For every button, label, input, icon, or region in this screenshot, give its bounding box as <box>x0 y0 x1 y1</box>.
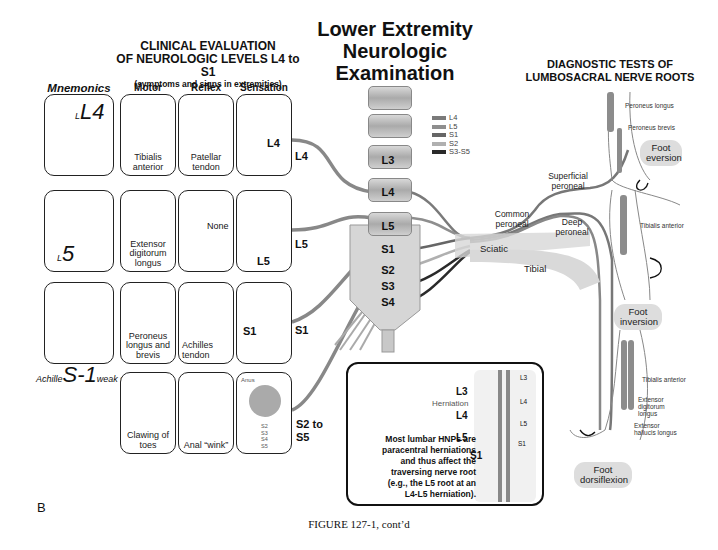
sensation-card-l5: L5 <box>236 190 292 272</box>
vertebra-label-l4: L4 <box>368 186 408 198</box>
muscle-label-extensor-digitorum-longus: Extensor digitorum longus <box>638 396 682 417</box>
panel-label: B <box>37 500 46 515</box>
region-label: S4 <box>261 436 268 443</box>
mnemonic-caption-left: Achille <box>36 374 63 384</box>
sciatic-label: Sciatic <box>480 244 508 254</box>
legend-swatch <box>432 125 446 129</box>
herniation-info-box: L3 Herniation L4 L5 S1 L3 L4 L5 S1 Most … <box>346 362 544 506</box>
explanation-line: traversing nerve root <box>356 467 476 478</box>
sensation-level: S1 <box>243 325 256 337</box>
legend-item: S3-S5 <box>432 148 470 157</box>
deep-peroneal-label: Deep peroneal <box>550 218 594 237</box>
explanation-line: Most lumbar HNPs are <box>356 434 476 445</box>
mnemonic-card-s1 <box>44 282 114 364</box>
motor-card-l4: Tibialis anterior <box>120 94 176 176</box>
vertebra-label-l5: L5 <box>368 220 408 232</box>
reflex-card-s2-s5: Anal “wink” <box>178 372 234 454</box>
vertebra-label-s2: S2 <box>368 264 408 276</box>
explanation-line: L4-L5 herniation). <box>356 489 476 500</box>
mnemonic-card-l4: LL4 <box>44 94 114 176</box>
sensation-card-l4: L4 <box>236 94 292 176</box>
explanation-line: (e.g., the L5 root at an <box>356 478 476 489</box>
vertebra-label-s4: S4 <box>368 296 408 308</box>
lumbar-spine-illustration <box>474 370 536 502</box>
row-level-s2-s5: S2 to S5 <box>296 418 326 444</box>
hnp-level-right: L4 <box>520 398 527 405</box>
sensation-card-s2-s5: Anus S2 S3 S4 S5 <box>236 372 292 454</box>
row-level-l4: L4 <box>295 150 308 162</box>
reflex-caption: Anal “wink” <box>179 441 233 451</box>
muscle-label-tibialis-anterior: Tibialis anterior <box>642 376 686 383</box>
hnp-level-right: L5 <box>520 420 527 427</box>
nerve-root <box>506 370 510 502</box>
motor-caption: Tibialis anterior <box>121 153 175 172</box>
legend-swatch <box>432 150 446 154</box>
reflex-caption: Patellar tendon <box>179 153 233 172</box>
mnemonic-level: S-1 <box>63 362 97 387</box>
anus-label: Anus <box>241 377 255 383</box>
figure-caption: FIGURE 127-1, cont’d <box>0 518 718 530</box>
foot-dorsiflexion-label: Foot dorsiflexion <box>574 462 632 488</box>
legend-swatch <box>432 142 446 146</box>
row-level-s1: S1 <box>295 324 308 336</box>
mnemonic-text: LL4 <box>75 99 105 125</box>
motor-card-s2-s5: Clawing of toes <box>120 372 176 454</box>
motor-card-s1: Peroneus longus and brevis <box>120 282 176 364</box>
common-peroneal-label: Common peroneal <box>490 210 534 229</box>
mnemonic-text: L5 <box>57 241 74 267</box>
herniation-label: Herniation <box>432 399 468 408</box>
hnp-level-right: L3 <box>520 374 527 381</box>
explanation-line: and thus affect the <box>356 456 476 467</box>
legend-swatch <box>432 133 446 137</box>
reflex-card-l5: None <box>178 190 234 272</box>
vertebra <box>368 114 412 138</box>
sensation-level: L5 <box>257 255 270 267</box>
foot-eversion-label: Foot eversion <box>640 140 682 166</box>
legend-swatch <box>432 116 446 120</box>
muscle-label-tibialis-anterior: Tibialis anterior <box>640 222 684 229</box>
mnemonic-level: L4 <box>80 99 104 124</box>
l4-nerve-path <box>292 140 372 192</box>
vertebra-label-s3: S3 <box>368 280 408 292</box>
reflex-caption: None <box>207 221 229 231</box>
explanation-line: paracentral herniations <box>356 445 476 456</box>
sensation-level: L4 <box>267 137 280 149</box>
vertebra <box>368 86 412 110</box>
hnp-level-left: L3 <box>456 386 468 397</box>
reflex-caption: Achilles tendon <box>182 341 233 360</box>
mnemonic-card-l5: L5 <box>44 190 114 272</box>
reflex-card-s1: Achilles tendon <box>178 282 234 364</box>
hnp-level-right: S1 <box>518 440 526 447</box>
motor-caption: Peroneus longus and brevis <box>121 332 175 361</box>
motor-card-l5: Extensor digitorum longus <box>120 190 176 272</box>
sensation-card-s1: S1 <box>236 282 292 364</box>
muscle-label-peroneus-brevis: Peroneus brevis <box>628 124 675 131</box>
foot-inversion-label: Foot inversion <box>614 304 662 330</box>
muscle-label-extensor-hallucis-longus: Extensor hallucis longus <box>634 422 678 436</box>
region-label: S2 <box>261 423 268 430</box>
hnp-level-left: L4 <box>456 410 468 421</box>
herniation-explanation: Most lumbar HNPs are paracentral herniat… <box>356 434 476 500</box>
nerve-root-legend: L4 L5 S1 S2 S3-S5 <box>432 114 470 157</box>
motor-caption: Extensor digitorum longus <box>121 240 175 269</box>
reflex-card-l4: Patellar tendon <box>178 94 234 176</box>
legend-label: S3-S5 <box>449 148 470 157</box>
vertebra-label-l3: L3 <box>368 154 408 166</box>
row-level-l5: L5 <box>295 238 308 250</box>
motor-caption: Clawing of toes <box>121 431 175 450</box>
muscle-label-peroneus-longus: Peroneus longus <box>625 102 674 109</box>
tibial-label: Tibial <box>524 264 546 274</box>
region-label: S5 <box>261 443 268 450</box>
superficial-peroneal-label: Superficial peroneal <box>540 172 596 191</box>
vertebra-label-s1: S1 <box>368 243 408 255</box>
nerve-root <box>498 370 502 502</box>
sensation-regions: S2 S3 S4 S5 <box>261 423 268 449</box>
perianal-region <box>249 385 281 417</box>
